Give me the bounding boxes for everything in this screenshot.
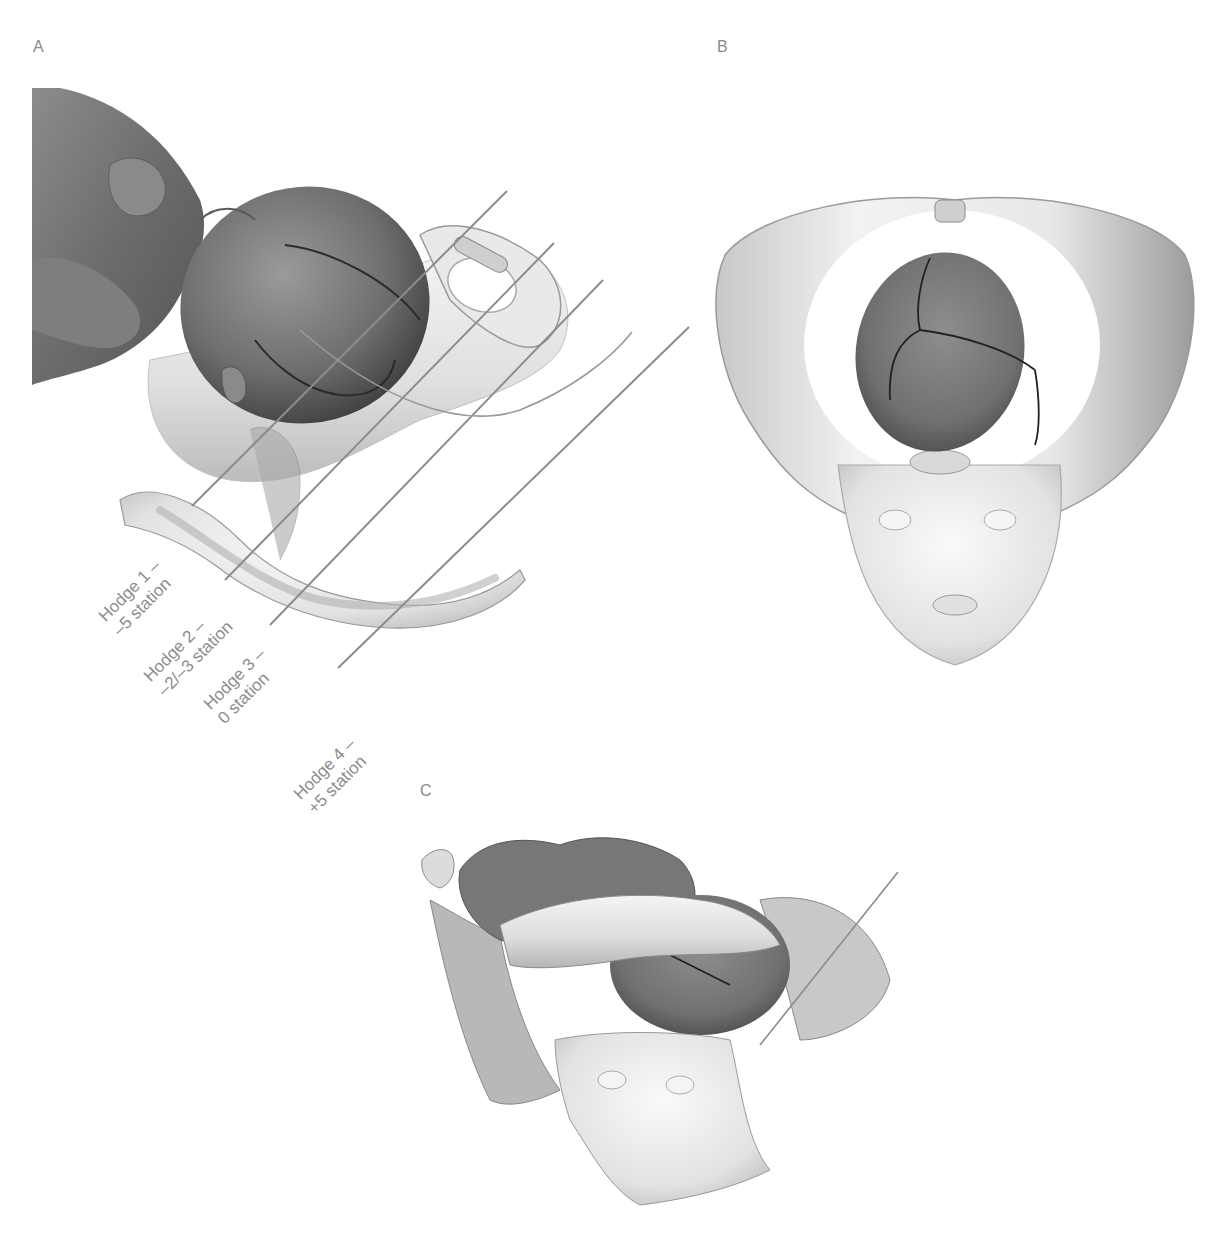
- sacrum-c: [555, 1033, 770, 1206]
- panel-b-illustration: [716, 197, 1194, 665]
- pubic-symphysis-b: [935, 200, 965, 222]
- coccyx-b: [933, 595, 977, 615]
- sacral-foramen-left: [879, 510, 911, 530]
- panel-c-illustration: [422, 838, 898, 1205]
- sacral-promontory: [910, 450, 970, 474]
- sacral-foramen-c-2: [666, 1076, 694, 1094]
- sacral-foramen-c-1: [598, 1071, 626, 1089]
- panel-a-illustration: [32, 88, 568, 628]
- sacral-foramen-right: [984, 510, 1016, 530]
- sacrum-spine: [120, 492, 525, 628]
- fetal-foot-c: [422, 850, 454, 888]
- anatomy-figure: [0, 0, 1219, 1235]
- sacrum-b: [838, 465, 1061, 665]
